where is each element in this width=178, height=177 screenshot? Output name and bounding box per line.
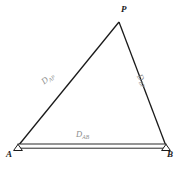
vertex-label-a: A (6, 150, 12, 159)
side-label-ab: DAB (76, 130, 89, 139)
side-label-ab-sub: AB (82, 134, 89, 140)
figure-caption (0, 169, 178, 177)
vertex-label-p: P (121, 5, 127, 14)
side-ab-baseline (18, 144, 166, 148)
side-ap-line (18, 22, 119, 146)
triangle-diagram-svg (0, 0, 178, 177)
figure-canvas: DAP DBP DAB P A B (0, 0, 178, 177)
vertex-label-b: B (167, 150, 173, 159)
